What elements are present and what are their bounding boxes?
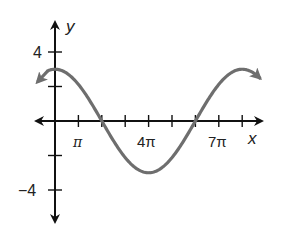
x-tick-label-4pi: 4π xyxy=(137,133,156,150)
y-tick-label-neg4: −4 xyxy=(18,182,36,199)
curve-left-arrow xyxy=(37,71,48,82)
y-tick-label-4: 4 xyxy=(33,44,42,61)
y-axis-label: y xyxy=(65,17,76,36)
x-tick-label-pi: π xyxy=(72,134,83,150)
x-tick-label-7pi: 7π xyxy=(208,133,227,150)
x-axis-label: x xyxy=(247,129,257,148)
cosine-graph: y x 4 −4 π 4π 7π xyxy=(0,0,282,244)
